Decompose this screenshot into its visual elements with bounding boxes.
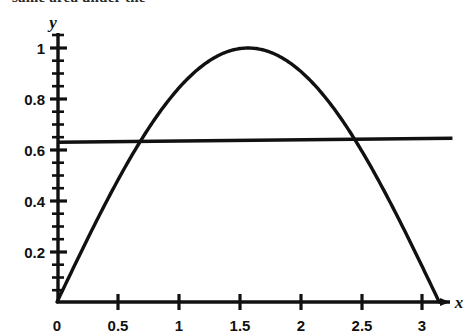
plot-canvas: 1 0.8 0.6 0.4 0.2 0 0.5 1 1.5 2 2.5 3 y …	[0, 0, 472, 336]
y-tick-label: 0.6	[24, 142, 45, 159]
x-tick-label: 3	[418, 317, 426, 334]
x-tick-label: 2	[297, 317, 305, 334]
axes-group	[57, 33, 450, 306]
y-tick-label: 1	[37, 40, 45, 57]
x-tick-label: 0	[53, 317, 61, 334]
y-axis-tick-labels: 1 0.8 0.6 0.4 0.2	[24, 40, 46, 261]
x-tick-label: 1.5	[230, 317, 251, 334]
sine-curve-path	[57, 48, 439, 302]
x-axis-tick-labels: 0 0.5 1 1.5 2 2.5 3	[53, 317, 426, 334]
figure-container: same area under the	[0, 0, 472, 336]
y-tick-label: 0.8	[24, 91, 45, 108]
y-tick-label: 0.4	[24, 193, 46, 210]
y-axis-label: y	[47, 13, 57, 32]
data-series-group	[57, 48, 452, 302]
x-axis-label: x	[454, 293, 464, 312]
x-axis-arrowhead	[440, 298, 450, 306]
y-tick-label: 0.2	[24, 244, 45, 261]
x-tick-label: 2.5	[352, 317, 373, 334]
x-tick-label: 0.5	[108, 317, 129, 334]
mean-value-line	[57, 138, 452, 142]
x-tick-label: 1	[175, 317, 183, 334]
